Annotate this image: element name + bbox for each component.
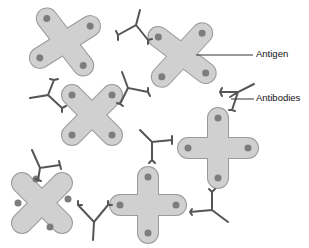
antigen-3 [69,92,116,139]
antibody-3 [117,72,150,106]
antibody-1 [116,10,152,44]
antibody-7 [78,201,112,240]
antibody-2 [30,79,66,112]
antibodies-label: Antibodies [256,92,300,103]
antigen-group [15,14,252,236]
antigen-antibody-diagram [0,0,309,248]
antigen-6 [117,174,180,237]
antibody-5 [140,130,172,163]
antigen-label: Antigen [256,48,288,59]
antibody-8 [190,189,228,222]
antigen-4 [185,115,252,182]
antibody-4 [220,84,254,111]
antigen-1 [36,14,94,69]
antigen-5 [15,176,72,231]
